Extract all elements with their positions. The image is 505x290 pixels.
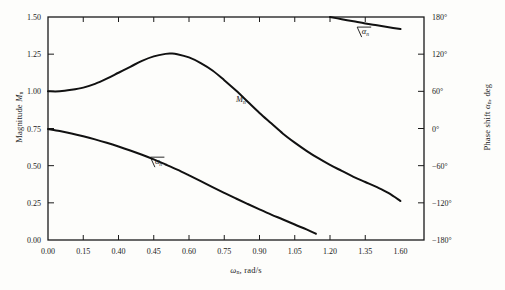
axes-border <box>48 17 424 240</box>
x-tick-label: 0.00 <box>41 247 55 256</box>
y-right-tick-label: −180° <box>432 236 452 245</box>
y-axis-left-title: Magnitude Mn <box>14 67 24 167</box>
y-right-tick-label: −120° <box>432 199 452 208</box>
x-tick-label: 0.75 <box>217 247 231 256</box>
x-axis-ticks <box>83 17 365 240</box>
x-axis-title-tail: , rad/s <box>240 265 262 275</box>
y-axis-left-title-text: Magnitude <box>14 102 24 143</box>
y-axis-right-title-symbol: α <box>482 104 492 109</box>
annotation-text: αn <box>362 26 369 37</box>
y-axis-left-tick-labels: 0.000.250.500.751.001.251.50 <box>27 13 41 245</box>
y-axis-right-ticks <box>418 54 424 203</box>
plot-frame <box>48 17 424 240</box>
x-tick-label: 1.20 <box>323 247 337 256</box>
x-tick-label: 1.35 <box>358 247 372 256</box>
y-right-tick-label: 0° <box>432 125 439 134</box>
y-right-tick-label: 180° <box>432 13 447 22</box>
phase-curve-label-lower: αn <box>150 156 164 167</box>
data-curves <box>48 17 401 234</box>
y-left-tick-label: 0.50 <box>27 162 41 171</box>
annotation-text: αn <box>155 156 162 167</box>
y-right-tick-label: 60° <box>432 87 443 96</box>
y-axis-right-title: Phase shift αn, deg <box>482 67 492 167</box>
x-tick-label: 0.90 <box>253 247 267 256</box>
y-left-tick-label: 0.25 <box>27 199 41 208</box>
x-tick-label: 1.60 <box>394 247 408 256</box>
annotation-subscript: n <box>243 99 246 105</box>
x-axis-tick-labels: 0.000.150.400.450.600.750.901.051.201.35… <box>41 247 408 256</box>
curve-path <box>48 129 316 234</box>
y-axis-left-title-symbol: M <box>14 95 24 102</box>
y-right-tick-label: −60° <box>432 162 448 171</box>
x-axis-title: ωn, rad/s <box>186 265 306 275</box>
y-right-tick-label: 120° <box>432 50 447 59</box>
y-left-tick-label: 0.75 <box>27 125 41 134</box>
phase-curve-label-upper: αn <box>357 26 371 37</box>
curve-path <box>48 54 401 202</box>
frequency-response-figure: 0.000.150.400.450.600.750.901.051.201.35… <box>0 0 505 290</box>
plot-canvas: 0.000.150.400.450.600.750.901.051.201.35… <box>0 0 505 290</box>
annotation-subscript: n <box>159 161 162 167</box>
curve-annotations: Mnαnαn <box>150 26 371 167</box>
y-axis-right-tick-labels: −180°−120°−60°0°60°120°180° <box>432 13 452 245</box>
y-axis-right-title-tail: , deg <box>482 84 492 102</box>
y-axis-right-title-text: Phase shift <box>482 109 492 151</box>
x-tick-label: 1.05 <box>288 247 302 256</box>
y-left-tick-label: 1.50 <box>27 13 41 22</box>
y-axis-left-title-subscript: n <box>18 91 24 94</box>
x-tick-label: 0.60 <box>182 247 196 256</box>
y-left-tick-label: 0.00 <box>27 236 41 245</box>
y-left-tick-label: 1.00 <box>27 87 41 96</box>
magnitude-curve-label: Mn <box>235 94 246 105</box>
y-left-tick-label: 1.25 <box>27 50 41 59</box>
x-tick-label: 0.15 <box>76 247 90 256</box>
y-axis-right-title-subscript: n <box>486 101 492 104</box>
x-tick-label: 0.45 <box>147 247 161 256</box>
x-tick-label: 0.40 <box>112 247 126 256</box>
annotation-subscript: n <box>366 31 369 37</box>
